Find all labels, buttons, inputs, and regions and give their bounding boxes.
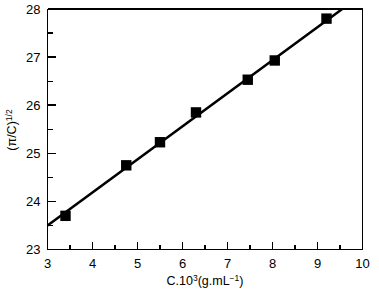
frame-top-right (48, 9, 363, 250)
data-point (243, 75, 253, 85)
x-axis-tick-labels: 345678910 (44, 256, 370, 271)
data-point (155, 137, 165, 147)
x-tick-label: 3 (44, 256, 51, 271)
x-tick-label: 10 (355, 256, 369, 271)
y-axis-title-text: (π/C)1/2 (4, 109, 19, 151)
x-tick-label: 4 (89, 256, 96, 271)
x-axis-title-text: C.103(g.mL−1) (167, 273, 244, 288)
y-tick-label: 28 (26, 2, 40, 17)
data-region (48, 9, 343, 225)
x-tick-label: 5 (134, 256, 141, 271)
x-tick-label: 8 (269, 256, 276, 271)
y-tick-label: 25 (26, 146, 40, 161)
y-axis-tick-labels: 232425262728 (26, 2, 40, 258)
y-axis-title: (π/C)1/2 (4, 109, 19, 151)
y-tick-label: 23 (26, 242, 40, 257)
data-point-markers (60, 13, 331, 221)
data-point (121, 160, 131, 170)
chart-plot: 345678910 232425262728 C.103(g.mL−1) (π/… (0, 0, 379, 296)
data-point (191, 107, 201, 117)
x-tick-label: 9 (314, 256, 321, 271)
y-tick-label: 24 (26, 194, 40, 209)
x-tick-label: 7 (224, 256, 231, 271)
data-point (270, 55, 280, 65)
x-axis-title: C.103(g.mL−1) (167, 273, 244, 288)
y-tick-label: 26 (26, 98, 40, 113)
y-tick-label: 27 (26, 50, 40, 65)
data-point (321, 13, 331, 23)
data-point (60, 211, 70, 221)
figure-container: 345678910 232425262728 C.103(g.mL−1) (π/… (0, 0, 379, 296)
plot-frame (48, 9, 364, 250)
x-tick-label: 6 (179, 256, 186, 271)
axis-lines (48, 9, 364, 250)
